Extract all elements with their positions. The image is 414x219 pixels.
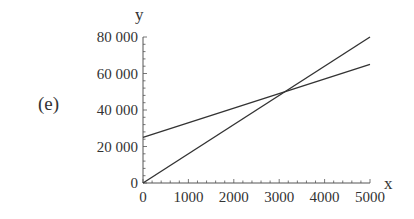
y-tick-label: 20 000	[97, 139, 138, 155]
series-line	[143, 64, 370, 137]
line-chart: (e) 010002000300040005000020 00040 00060…	[0, 0, 414, 219]
y-axis-label: y	[135, 5, 144, 24]
x-tick-label: 0	[139, 189, 147, 205]
x-axis-label: x	[384, 174, 393, 193]
y-tick-label: 60 000	[97, 66, 138, 82]
y-tick-label: 0	[131, 175, 139, 191]
series-line	[143, 37, 370, 183]
x-tick-label: 4000	[310, 189, 340, 205]
y-tick-label: 40 000	[97, 102, 138, 118]
x-tick-label: 1000	[173, 189, 203, 205]
x-tick-label: 5000	[355, 189, 385, 205]
x-tick-label: 2000	[219, 189, 249, 205]
panel-label: (e)	[38, 93, 59, 115]
y-tick-label: 80 000	[97, 29, 138, 45]
series-lines	[143, 37, 370, 183]
x-tick-label: 3000	[264, 189, 294, 205]
